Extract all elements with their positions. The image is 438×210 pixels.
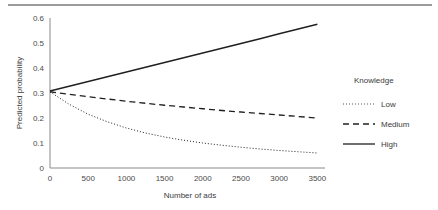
legend-title: Knowledge [354,76,394,85]
y-tick-label: 0.5 [33,39,45,48]
x-tick-label: 500 [82,174,96,183]
series-line-low [50,92,317,153]
y-tick-labels: 00.10.20.30.40.50.6 [33,14,45,173]
y-tick-label: 0.3 [33,89,45,98]
y-tick-label: 0.6 [33,14,45,23]
x-tick-labels: 0500100015002000250030003500 [48,174,327,183]
x-tick-label: 1000 [117,174,135,183]
y-axis-title: Predicted probability [15,57,24,129]
series-group [50,24,317,153]
series-line-medium [50,92,317,118]
x-tick-label: 3500 [308,174,326,183]
legend-label-low: Low [381,100,396,109]
y-tick-label: 0.1 [33,139,45,148]
series-line-high [50,24,317,91]
legend-label-medium: Medium [381,120,410,129]
x-tick-label: 2000 [194,174,212,183]
y-tick-label: 0 [40,164,45,173]
x-axis-group: 0500100015002000250030003500 [48,168,327,183]
x-tick-label: 1500 [156,174,174,183]
x-tick-label: 3000 [270,174,288,183]
x-tick-label: 2500 [232,174,250,183]
line-chart: 00.10.20.30.40.50.6 05001000150020002500… [0,0,438,210]
x-axis-title: Number of ads [164,191,216,200]
y-axis-group: 00.10.20.30.40.50.6 [33,14,50,173]
y-tick-label: 0.4 [33,64,45,73]
legend-entries: LowMediumHigh [343,100,410,149]
legend: Knowledge LowMediumHigh [343,76,410,149]
y-tick-label: 0.2 [33,114,45,123]
legend-label-high: High [381,140,397,149]
chart-figure: 00.10.20.30.40.50.6 05001000150020002500… [0,0,438,210]
x-tick-label: 0 [48,174,53,183]
